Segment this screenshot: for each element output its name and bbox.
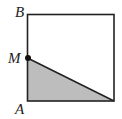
diagram: B M A [0, 0, 122, 119]
point-m [25, 55, 31, 61]
label-a: A [14, 101, 25, 117]
label-m: M [7, 50, 22, 66]
label-b: B [15, 4, 24, 20]
